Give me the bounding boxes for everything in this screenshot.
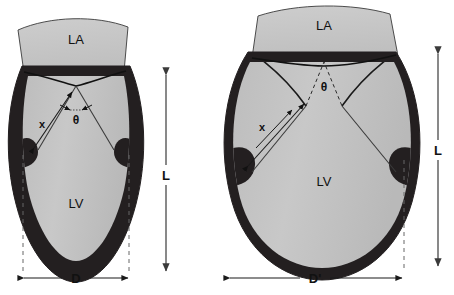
x-label-dilated: x: [259, 121, 266, 133]
dilated-heart-panel: [224, 6, 438, 280]
x-label-normal: x: [39, 118, 46, 130]
heart-geometry-figure: LA LV θ x L D LA LV θ x L D': [0, 0, 454, 295]
l-label-dilated: L: [434, 143, 442, 158]
theta-label-normal: θ: [73, 113, 80, 127]
l-label-normal: L: [162, 168, 170, 183]
lv-label-dilated: LV: [317, 174, 332, 189]
la-label-normal: LA: [68, 32, 84, 47]
d-prime-label-dilated: D': [309, 271, 321, 286]
la-label-dilated: LA: [316, 18, 332, 33]
normal-heart-panel: [8, 19, 166, 282]
theta-label-dilated: θ: [321, 80, 328, 94]
lv-label-normal: LV: [69, 196, 84, 211]
diagram-canvas: LA LV θ x L D LA LV θ x L D': [0, 0, 454, 295]
d-label-normal: D: [71, 271, 80, 286]
